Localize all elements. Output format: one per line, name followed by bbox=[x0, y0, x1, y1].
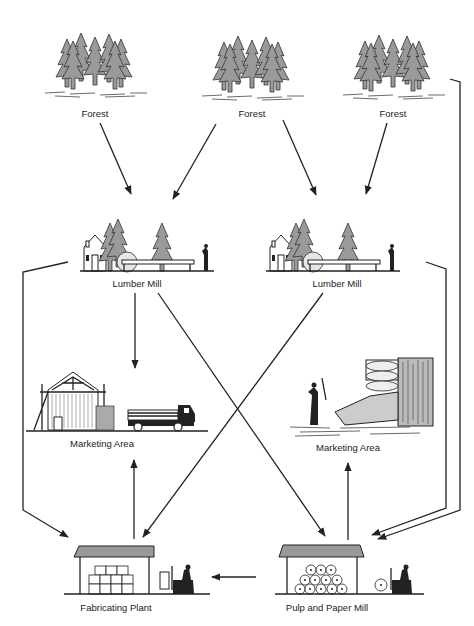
forest-1-label: Forest bbox=[82, 108, 109, 119]
lumber-mill-1-label: Lumber Mill bbox=[112, 278, 161, 289]
arrow-forest2-to-lumbermill2 bbox=[283, 120, 316, 195]
forest-2-label: Forest bbox=[239, 108, 266, 119]
marketing-area-1-illustration bbox=[26, 372, 208, 431]
arrow-forest3-to-pulp-paper-mill bbox=[378, 79, 460, 539]
lumber-mill-2-illustration bbox=[266, 219, 400, 272]
forest-3-label: Forest bbox=[380, 108, 407, 119]
lumber-mill-2-label: Lumber Mill bbox=[312, 278, 361, 289]
pulp-paper-mill-label: Pulp and Paper Mill bbox=[286, 602, 368, 613]
forest-3-illustration bbox=[343, 35, 445, 99]
arrow-forest3-to-lumbermill2 bbox=[366, 123, 387, 194]
marketing-area-2-illustration bbox=[290, 358, 433, 436]
arrow-forest2-to-lumbermill1 bbox=[173, 124, 216, 199]
marketing-area-2-label: Marketing Area bbox=[316, 442, 381, 453]
marketing-area-1-label: Marketing Area bbox=[70, 438, 135, 449]
arrow-forest1-to-lumbermill1 bbox=[100, 123, 131, 194]
forest-1-illustration bbox=[45, 33, 147, 97]
pulp-paper-mill-illustration bbox=[275, 545, 424, 594]
lumber-mill-1-illustration bbox=[80, 219, 214, 272]
forest-2-illustration bbox=[202, 36, 304, 100]
fabricating-plant-illustration bbox=[64, 546, 210, 594]
forest-products-flow-diagram: Forest Forest Forest Lumber Mill Lumber … bbox=[0, 0, 474, 626]
flow-arrows bbox=[23, 79, 460, 577]
fabricating-plant-label: Fabricating Plant bbox=[80, 602, 152, 613]
